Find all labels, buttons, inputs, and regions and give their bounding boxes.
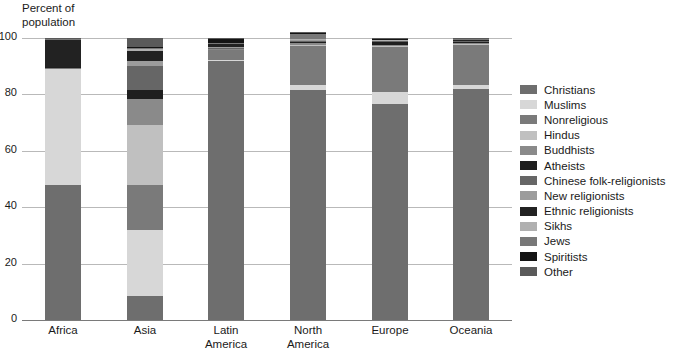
bar-segment[interactable] — [127, 296, 163, 320]
bar-column[interactable] — [127, 38, 163, 320]
legend-item[interactable]: Atheists — [520, 158, 665, 173]
legend-item[interactable]: Sikhs — [520, 219, 665, 234]
bar-segment[interactable] — [290, 46, 326, 85]
bar-segment[interactable] — [372, 46, 408, 91]
bar-segment[interactable] — [127, 38, 163, 47]
legend-swatch-icon — [520, 267, 537, 276]
gridline: 80 — [22, 94, 512, 95]
legend-item[interactable]: Chinese folk-religionists — [520, 173, 665, 188]
bar-segment[interactable] — [453, 44, 489, 45]
legend-item[interactable]: Muslims — [520, 97, 665, 112]
bar-segment[interactable] — [208, 60, 244, 61]
legend-swatch-icon — [520, 161, 537, 170]
x-axis-category-label: North America — [263, 324, 353, 351]
legend-swatch-icon — [520, 115, 537, 124]
bar-segment[interactable] — [127, 61, 163, 67]
bar-segment[interactable] — [208, 47, 244, 48]
legend-swatch-icon — [520, 222, 537, 231]
bar-segment[interactable] — [127, 185, 163, 230]
legend-swatch-icon — [520, 176, 537, 185]
bar-segment[interactable] — [208, 61, 244, 320]
x-axis-category-label: Europe — [345, 324, 435, 338]
bar-segment[interactable] — [372, 92, 408, 105]
bar-segment[interactable] — [208, 43, 244, 44]
y-axis-tick-label: 60 — [5, 144, 17, 155]
bar-segment[interactable] — [45, 39, 81, 67]
legend-item-label: Muslims — [544, 99, 586, 111]
bar-segment[interactable] — [453, 85, 489, 88]
bar-segment[interactable] — [127, 49, 163, 51]
plot-area: 020406080100AfricaAsiaLatin AmericaNorth… — [22, 38, 512, 320]
bar-segment[interactable] — [45, 67, 81, 68]
bar-segment[interactable] — [127, 66, 163, 90]
bar-column[interactable] — [208, 38, 244, 320]
bar-segment[interactable] — [127, 51, 163, 61]
gridline: 40 — [22, 207, 512, 208]
gridline: 60 — [22, 151, 512, 152]
bar-segment[interactable] — [127, 230, 163, 296]
legend-item[interactable]: Spiritists — [520, 249, 665, 264]
bar-segment[interactable] — [453, 43, 489, 44]
legend-item-label: Buddhists — [544, 144, 595, 156]
legend-item-label: Atheists — [544, 160, 585, 172]
bar-segment[interactable] — [290, 32, 326, 33]
bar-segment[interactable] — [453, 39, 489, 40]
legend-item-label: Jews — [544, 235, 570, 247]
legend-item[interactable]: Ethnic religionists — [520, 204, 665, 219]
legend-swatch-icon — [520, 131, 537, 140]
bar-segment[interactable] — [127, 99, 163, 126]
bar-column[interactable] — [45, 38, 81, 320]
legend-item[interactable]: Christians — [520, 82, 665, 97]
y-axis-tick-label: 20 — [5, 257, 17, 268]
bar-segment[interactable] — [290, 34, 326, 40]
legend-swatch-icon — [520, 85, 537, 94]
bar-segment[interactable] — [453, 38, 489, 39]
bar-segment[interactable] — [372, 104, 408, 320]
bar-segment[interactable] — [372, 45, 408, 46]
bar-segment[interactable] — [290, 85, 326, 90]
bar-segment[interactable] — [45, 38, 81, 39]
legend-item-label: Hindus — [544, 129, 580, 141]
bar-segment[interactable] — [290, 43, 326, 45]
bar-segment[interactable] — [372, 38, 408, 39]
bar-column[interactable] — [290, 38, 326, 320]
legend-swatch-icon — [520, 252, 537, 261]
legend-swatch-icon — [520, 100, 537, 109]
legend-item[interactable]: Nonreligious — [520, 112, 665, 127]
bar-segment[interactable] — [127, 47, 163, 48]
legend-item-label: Christians — [544, 84, 595, 96]
y-axis-tick-label: 0 — [11, 313, 17, 324]
legend-swatch-icon — [520, 146, 537, 155]
legend-item[interactable]: Hindus — [520, 128, 665, 143]
bar-segment[interactable] — [127, 90, 163, 98]
legend-item[interactable]: Buddhists — [520, 143, 665, 158]
gridline: 100 — [22, 38, 512, 39]
bar-segment[interactable] — [208, 38, 244, 39]
bar-segment[interactable] — [208, 44, 244, 47]
legend-item-label: Other — [544, 266, 573, 278]
x-axis-category-label: Latin America — [181, 324, 271, 351]
legend-item-label: Nonreligious — [544, 114, 608, 126]
bar-segment[interactable] — [45, 69, 81, 185]
bar-segment[interactable] — [453, 44, 489, 85]
bar-column[interactable] — [372, 38, 408, 320]
legend-item[interactable]: New religionists — [520, 188, 665, 203]
bar-segment[interactable] — [290, 45, 326, 46]
bar-column[interactable] — [453, 38, 489, 320]
legend-item-label: New religionists — [544, 190, 625, 202]
bar-segment[interactable] — [453, 89, 489, 320]
bar-segment[interactable] — [290, 39, 326, 40]
legend-item[interactable]: Other — [520, 264, 665, 279]
bar-segment[interactable] — [208, 50, 244, 60]
bar-segment[interactable] — [45, 185, 81, 320]
stacked-bar-chart: Percent of population 020406080100Africa… — [0, 0, 674, 360]
bar-segment[interactable] — [127, 125, 163, 184]
legend-swatch-icon — [520, 237, 537, 246]
bar-segment[interactable] — [208, 39, 244, 43]
x-axis-category-label: Africa — [18, 324, 108, 338]
legend-item-label: Ethnic religionists — [544, 205, 633, 217]
bar-segment[interactable] — [290, 90, 326, 320]
legend-item[interactable]: Jews — [520, 234, 665, 249]
y-axis-tick-label: 40 — [5, 200, 17, 211]
legend-item-label: Spiritists — [544, 251, 587, 263]
